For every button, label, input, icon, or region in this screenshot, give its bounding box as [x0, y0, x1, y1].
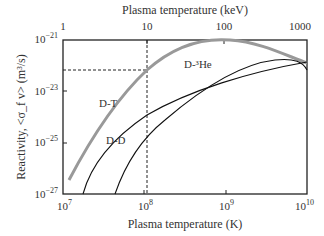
x-tick: 1010: [295, 198, 314, 212]
label-dt: D-T: [99, 97, 118, 109]
x2-tick: 10: [142, 20, 154, 32]
x2-tick: 1: [60, 20, 66, 32]
y-tick: 10−27: [34, 186, 58, 200]
series-dd: [83, 62, 307, 194]
x2-tick: 100: [216, 20, 233, 32]
y-axis-title: Reactivity, <σ_f v> (m³/s): [14, 54, 28, 179]
x-tick: 109: [219, 198, 234, 212]
x-tick: 108: [138, 198, 153, 212]
series-dhe: [115, 59, 307, 194]
y-tick: 10−25: [34, 134, 58, 148]
label-dd: D-D: [106, 134, 126, 146]
label-dhe: D-³He: [184, 58, 212, 70]
y-tick: 10−21: [34, 31, 58, 45]
x2-axis-title: Plasma temperature (keV): [122, 3, 248, 17]
x-axis-title: Plasma temperature (K): [128, 217, 243, 231]
x-tick: 107: [57, 198, 72, 212]
reactivity-chart: Plasma temperature (keV) 1 10 100 1000 D…: [0, 0, 324, 236]
y-tick: 10−23: [34, 83, 58, 97]
x2-tick: 1000: [289, 20, 312, 32]
